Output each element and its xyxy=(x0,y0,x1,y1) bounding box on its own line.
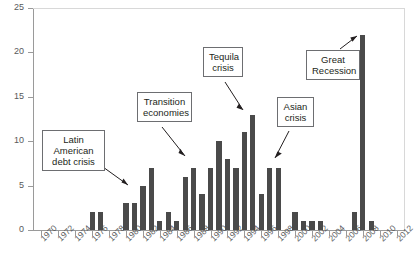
annotation-great-recession: Great Recession xyxy=(306,50,360,80)
leader-arrow-asian xyxy=(275,152,282,159)
annotation-transition-economies: Transition economies xyxy=(137,92,192,122)
annotation-tequila-crisis: Tequila crisis xyxy=(203,47,243,77)
leader-arrow-latin xyxy=(122,179,129,186)
annotation-asian-crisis: Asian crisis xyxy=(277,97,314,127)
leader-arrow-transition xyxy=(179,149,186,156)
annotation-latin-american-debt-crisis: Latin American debt crisis xyxy=(42,130,105,171)
